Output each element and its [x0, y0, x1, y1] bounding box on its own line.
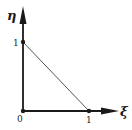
node-eta-one: [21, 40, 25, 44]
eta-axis-arrowhead: [20, 6, 27, 24]
node-xi-one: [87, 109, 91, 113]
eta-tick-label: 1: [13, 38, 19, 48]
hypotenuse-edge: [23, 42, 89, 111]
xi-axis-label: ξ: [120, 104, 129, 119]
triangle-diagram: η ξ 1 0 1: [0, 0, 132, 130]
origin-label: 0: [17, 114, 23, 124]
xi-tick-label: 1: [86, 115, 92, 125]
xi-axis-arrowhead: [101, 108, 119, 115]
node-origin: [21, 109, 25, 113]
eta-axis-label: η: [7, 8, 16, 23]
